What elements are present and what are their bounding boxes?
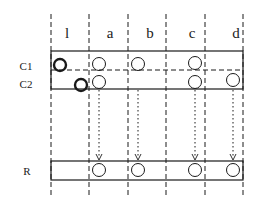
arrow-c	[192, 90, 198, 160]
row-label-c2: C2	[20, 78, 33, 90]
column-labels: l a b c d	[65, 25, 240, 41]
circle-c1-b-icon	[132, 58, 145, 71]
circle-r-b-icon	[132, 164, 145, 177]
column-label-a: a	[107, 25, 114, 41]
arrow-d	[230, 90, 236, 160]
c-relation-box	[51, 51, 243, 89]
column-separators	[51, 14, 243, 198]
r-box-outline	[51, 161, 243, 180]
circle-r-d-icon	[227, 164, 240, 177]
row-label-r: R	[23, 165, 31, 177]
column-label-l: l	[65, 25, 69, 41]
circle-c1-l-icon	[54, 59, 66, 71]
circle-c2-c-icon	[189, 76, 202, 89]
diagram-canvas: l a b c d C1 C2 R	[0, 0, 258, 210]
column-label-c: c	[189, 25, 196, 41]
arrow-b	[135, 90, 141, 160]
circle-c1-c-icon	[189, 57, 202, 70]
row-labels: C1 C2 R	[20, 60, 33, 177]
circle-c2-a-icon	[93, 76, 106, 89]
column-label-d: d	[232, 25, 240, 41]
circle-c1-a-icon	[93, 58, 106, 71]
r-relation-box	[51, 161, 243, 180]
arrow-a	[96, 90, 102, 160]
tuple-circles	[54, 57, 240, 177]
row-label-c1: C1	[20, 60, 33, 72]
circle-r-a-icon	[93, 164, 106, 177]
circle-r-c-icon	[189, 164, 202, 177]
column-label-b: b	[146, 25, 154, 41]
circle-c2-d-icon	[227, 74, 240, 87]
projection-arrows	[96, 90, 236, 160]
